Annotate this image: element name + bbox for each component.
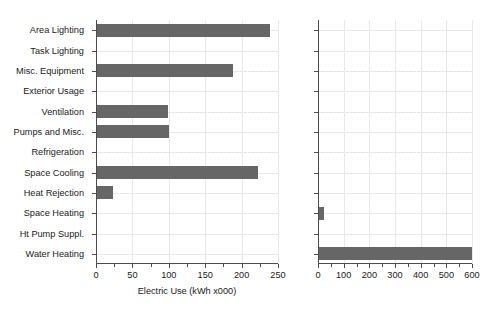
- x-axis-tick-minor: [434, 264, 435, 267]
- gridline-horizontal: [318, 132, 472, 133]
- bar: [319, 247, 472, 260]
- category-tick: [314, 234, 318, 235]
- x-axis-tick-major: [169, 264, 170, 268]
- category-tick: [314, 173, 318, 174]
- x-axis-tick-minor: [331, 264, 332, 267]
- x-axis-tick-major: [205, 264, 206, 268]
- bar: [97, 166, 258, 179]
- x-axis-tick-label: 400: [413, 270, 428, 280]
- gridline-vertical: [278, 20, 279, 264]
- category-tick: [92, 193, 96, 194]
- gridline-vertical: [132, 20, 133, 264]
- x-axis-tick-label: 150: [198, 270, 213, 280]
- x-axis-tick-label: 50: [127, 270, 137, 280]
- gridline-horizontal: [96, 213, 278, 214]
- electric-y-axis-line: [96, 20, 97, 264]
- category-tick: [92, 213, 96, 214]
- x-axis-tick-major: [369, 264, 370, 268]
- x-axis-tick-label: 300: [387, 270, 402, 280]
- x-axis-tick-minor: [408, 264, 409, 267]
- category-tick: [314, 91, 318, 92]
- bar: [97, 24, 270, 37]
- category-tick: [314, 254, 318, 255]
- x-axis-tick-label: 250: [270, 270, 285, 280]
- x-axis-tick-minor: [223, 264, 224, 267]
- gridline-vertical: [472, 20, 473, 264]
- x-axis-tick-major: [446, 264, 447, 268]
- gridline-vertical: [242, 20, 243, 264]
- x-axis-tick-label: 200: [362, 270, 377, 280]
- gridline-horizontal: [96, 51, 278, 52]
- gridline-horizontal: [318, 30, 472, 31]
- gridline-horizontal: [318, 173, 472, 174]
- x-axis-tick-major: [395, 264, 396, 268]
- gridline-vertical: [169, 20, 170, 264]
- category-tick: [314, 71, 318, 72]
- category-tick: [314, 112, 318, 113]
- gridline-horizontal: [318, 193, 472, 194]
- gridline-horizontal: [96, 193, 278, 194]
- category-tick: [92, 254, 96, 255]
- x-axis-tick-major: [242, 264, 243, 268]
- gridline-horizontal: [318, 112, 472, 113]
- category-tick: [92, 152, 96, 153]
- gridline-horizontal: [318, 213, 472, 214]
- x-axis-tick-minor: [357, 264, 358, 267]
- fuel-use-plot-area: 0100200300400500600: [318, 20, 472, 264]
- category-tick: [314, 152, 318, 153]
- category-tick: [92, 132, 96, 133]
- category-tick: [92, 51, 96, 52]
- gridline-horizontal: [318, 234, 472, 235]
- category-tick: [92, 71, 96, 72]
- gridline-horizontal: [96, 234, 278, 235]
- x-axis-tick-major: [421, 264, 422, 268]
- gridline-horizontal: [96, 152, 278, 153]
- category-axis-labels: Area LightingTask LightingMisc. Equipmen…: [0, 20, 88, 264]
- x-axis-tick-major: [344, 264, 345, 268]
- gridline-vertical: [421, 20, 422, 264]
- gridline-horizontal: [96, 91, 278, 92]
- x-axis-tick-minor: [151, 264, 152, 267]
- category-tick: [314, 213, 318, 214]
- gridline-horizontal: [318, 91, 472, 92]
- gridline-vertical: [344, 20, 345, 264]
- x-axis-tick-label: 500: [439, 270, 454, 280]
- gridline-horizontal: [96, 254, 278, 255]
- bar: [97, 105, 168, 118]
- x-axis-tick-label: 0: [315, 270, 320, 280]
- x-axis-tick-label: 100: [336, 270, 351, 280]
- gridline-vertical: [369, 20, 370, 264]
- gridline-vertical: [446, 20, 447, 264]
- x-axis-tick-minor: [382, 264, 383, 267]
- gridline-horizontal: [318, 71, 472, 72]
- fuel-use-panel: 0100200300400500600 Fuel Use (Btu x000,0…: [290, 0, 501, 314]
- category-tick: [92, 30, 96, 31]
- x-axis-tick-label: 600: [464, 270, 479, 280]
- bar: [97, 64, 233, 77]
- x-axis-tick-minor: [114, 264, 115, 267]
- bar: [97, 125, 169, 138]
- x-axis-tick-label: 0: [93, 270, 98, 280]
- category-tick: [92, 91, 96, 92]
- gridline-horizontal: [318, 51, 472, 52]
- category-tick: [314, 30, 318, 31]
- x-axis-tick-major: [96, 264, 97, 268]
- x-axis-tick-label: 100: [161, 270, 176, 280]
- x-axis-tick-major: [318, 264, 319, 268]
- x-axis-tick-minor: [459, 264, 460, 267]
- fuel-y-axis-line: [318, 20, 319, 264]
- category-tick: [92, 173, 96, 174]
- category-tick: [92, 234, 96, 235]
- electric-x-axis-title: Electric Use (kWh x000): [96, 286, 278, 296]
- category-tick: [314, 193, 318, 194]
- gridline-vertical: [205, 20, 206, 264]
- x-axis-tick-major: [472, 264, 473, 268]
- category-tick: [314, 51, 318, 52]
- electric-use-plot-area: 050100150200250: [96, 20, 278, 264]
- x-axis-tick-major: [132, 264, 133, 268]
- bar: [319, 207, 324, 220]
- x-axis-tick-minor: [260, 264, 261, 267]
- category-tick: [314, 132, 318, 133]
- gridline-horizontal: [318, 152, 472, 153]
- x-axis-tick-label: 200: [234, 270, 249, 280]
